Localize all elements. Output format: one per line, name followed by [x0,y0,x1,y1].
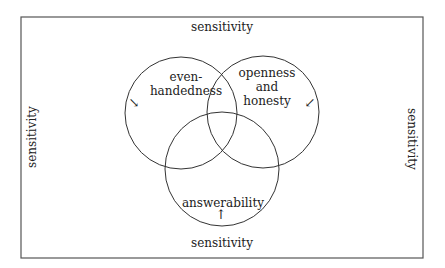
label-bottom-sensitivity: sensitivity [190,236,254,250]
label-top-sensitivity: sensitivity [190,20,254,34]
label-right-sensitivity: sensitivity [405,108,419,168]
arrow-down-left-icon: ↙ [303,96,317,110]
label-openness-honesty: openness and honesty [232,66,302,108]
arrow-up-icon: ↑ [214,208,228,222]
arrow-down-right-icon: ↘ [127,96,141,110]
label-even-handedness: even- handedness [146,70,226,98]
label-left-sensitivity: sensitivity [25,108,39,168]
venn-diagram [0,0,445,268]
